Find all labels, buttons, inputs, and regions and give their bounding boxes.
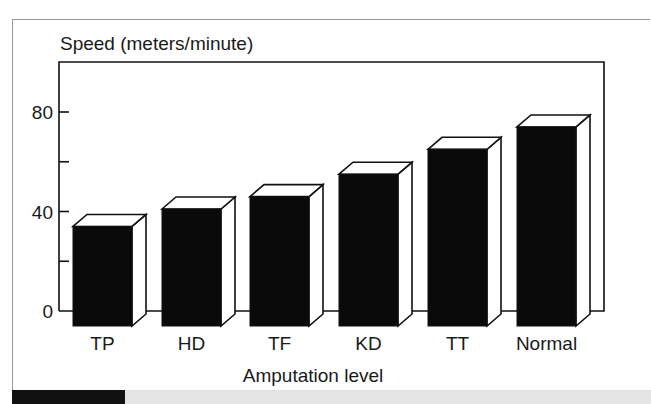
bars [73, 115, 590, 326]
x-tick-label: Normal [516, 333, 577, 354]
bar [250, 185, 323, 326]
footer-bar-dark [12, 390, 125, 404]
footer-bar-light [125, 390, 651, 404]
y-tick-label: 40 [32, 202, 53, 223]
bar [339, 162, 412, 326]
x-tick-label: HD [178, 333, 205, 354]
x-axis-tick-labels: TPHDTFKDTTNormal [90, 333, 577, 354]
x-tick-label: TT [446, 333, 470, 354]
bar [517, 115, 590, 326]
x-tick-label: TF [268, 333, 291, 354]
y-tick-label: 0 [42, 301, 53, 322]
x-axis-label: Amputation level [243, 365, 383, 386]
bar [73, 214, 146, 326]
y-axis-label: Speed (meters/minute) [60, 33, 253, 54]
bar [162, 197, 235, 326]
bar [428, 137, 501, 326]
x-tick-label: KD [355, 333, 381, 354]
y-tick-label: 80 [32, 102, 53, 123]
y-axis-ticks: 04080 [32, 102, 69, 322]
x-tick-label: TP [90, 333, 114, 354]
bar-chart: Speed (meters/minute) 04080 TPHDTFKDTTNo… [0, 0, 651, 404]
